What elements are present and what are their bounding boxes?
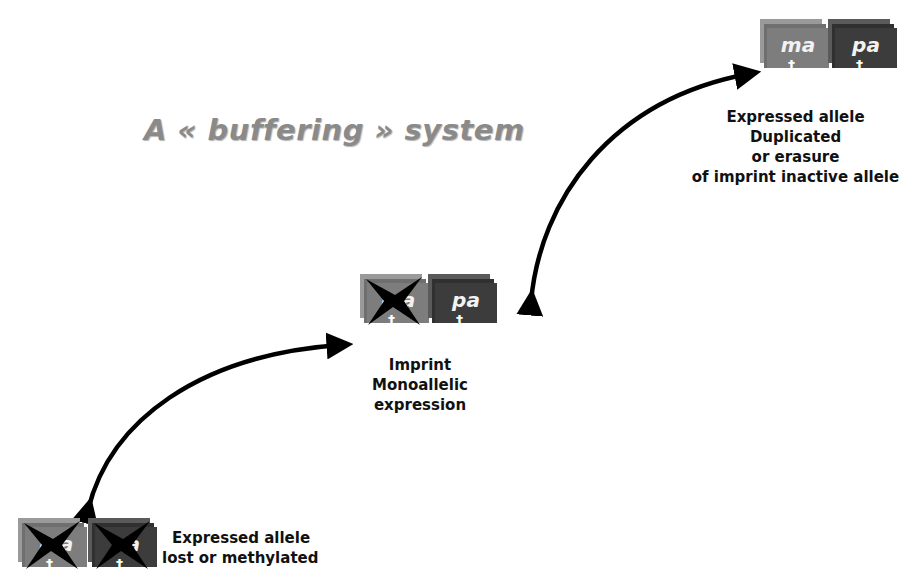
allele-label: pa (452, 288, 480, 312)
cross-icon: † (856, 58, 863, 72)
allele-ma-bottom: ma † (22, 523, 84, 567)
silenced-x-icon (360, 275, 430, 327)
allele-label: ma (781, 33, 815, 57)
allele-pa-top: pa † (832, 24, 894, 68)
allele-pa-bottom: pa † (92, 523, 154, 567)
cross-icon: † (456, 313, 463, 327)
allele-ma-top: ma † (764, 24, 826, 68)
allele-ma-middle: ma † (364, 279, 426, 323)
caption-bottom: Expressed allele lost or methylated (162, 528, 318, 568)
caption-line: lost or methylated (162, 548, 318, 568)
silenced-x-icon (88, 519, 158, 571)
allele-label: pa (852, 33, 880, 57)
caption-line: Monoallelic (355, 375, 485, 395)
allele-pa-middle: pa † (432, 279, 494, 323)
caption-line: Expressed allele (162, 528, 318, 548)
silenced-x-icon (18, 519, 88, 571)
caption-line: Duplicated (688, 127, 903, 147)
caption-middle: Imprint Monoallelic expression (355, 355, 485, 415)
caption-line: Imprint (355, 355, 485, 375)
caption-top: Expressed allele Duplicated or erasure o… (688, 107, 903, 187)
caption-line: of imprint inactive allele (688, 167, 903, 187)
caption-line: or erasure (688, 147, 903, 167)
cross-icon: † (788, 58, 795, 72)
caption-line: Expressed allele (688, 107, 903, 127)
caption-line: expression (355, 395, 485, 415)
arrow-bottom-middle (88, 345, 340, 510)
